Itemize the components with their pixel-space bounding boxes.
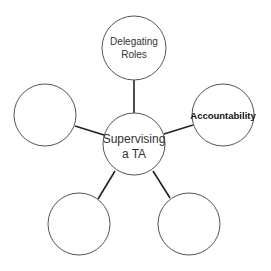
connector-left [75, 126, 104, 135]
node-label-line2: Roles [121, 49, 147, 60]
node-label-line1: Accountability [190, 110, 256, 121]
node-delegating-roles: Delegating Roles [102, 16, 166, 80]
node-circle [158, 193, 220, 255]
mind-map-diagram: Delegating Roles Accountability Supervis… [0, 0, 271, 271]
node-empty-left [14, 84, 76, 146]
node-label-line1: Delegating [110, 36, 158, 47]
node-empty-bottom-right [158, 193, 220, 255]
node-circle [14, 84, 76, 146]
node-accountability: Accountability [190, 84, 256, 146]
connector-bottom-right [153, 171, 170, 198]
node-circle [102, 16, 166, 80]
connector-right [164, 125, 193, 134]
connector-bottom-left [98, 171, 115, 199]
center-label-line1: Supervising [103, 132, 166, 146]
node-center-supervising-a-ta: Supervising a TA [103, 113, 166, 175]
center-label-line2: a TA [122, 147, 146, 161]
node-empty-bottom-left [48, 193, 110, 255]
node-circle [48, 193, 110, 255]
